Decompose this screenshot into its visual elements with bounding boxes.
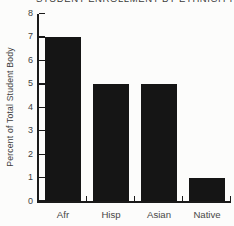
y-axis-line — [37, 14, 39, 203]
bar-asian — [141, 84, 177, 201]
x-tick — [134, 196, 135, 201]
x-tick — [230, 196, 231, 201]
y-tick — [39, 60, 45, 61]
y-tick — [39, 107, 45, 108]
y-tick-label: 4 — [13, 103, 33, 112]
bar-native — [189, 178, 225, 201]
y-tick-label: 8 — [13, 9, 33, 18]
y-tick-label: 5 — [13, 79, 33, 88]
bar-afr — [45, 37, 81, 201]
y-tick-label: 0 — [13, 197, 33, 206]
y-tick — [39, 36, 45, 37]
y-tick — [39, 200, 45, 201]
chart-title-clipped: STUDENT ENROLLMENT BY ETHNICITY — [36, 0, 234, 4]
y-tick-label: 7 — [13, 32, 33, 41]
bar-chart: STUDENT ENROLLMENT BY ETHNICITY Percent … — [0, 0, 234, 226]
x-tick — [86, 196, 87, 201]
chart-title-text: STUDENT ENROLLMENT BY ETHNICITY — [36, 0, 234, 4]
y-tick — [39, 83, 45, 84]
y-tick-label: 1 — [13, 173, 33, 182]
y-tick-label: 6 — [13, 56, 33, 65]
y-tick-label: 3 — [13, 126, 33, 135]
x-tick-label-native: Native — [183, 210, 231, 220]
x-tick-label-hisp: Hisp — [87, 210, 135, 220]
y-tick — [39, 177, 45, 178]
bar-hisp — [93, 84, 129, 201]
y-tick — [39, 130, 45, 131]
x-tick — [182, 196, 183, 201]
y-tick — [39, 13, 45, 14]
x-tick-label-afr: Afr — [39, 210, 87, 220]
x-axis-line — [37, 201, 231, 203]
y-tick-label: 2 — [13, 150, 33, 159]
x-tick-label-asian: Asian — [135, 210, 183, 220]
y-tick — [39, 154, 45, 155]
